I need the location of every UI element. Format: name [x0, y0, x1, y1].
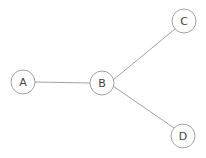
edge-b-c: [113, 29, 175, 80]
node-label-c: C: [180, 15, 188, 28]
node-d: D: [171, 124, 195, 148]
node-c: C: [172, 9, 196, 33]
node-label-b: B: [98, 77, 106, 90]
graph-svg: A B C D: [0, 0, 206, 158]
edge-a-b: [35, 82, 90, 83]
node-label-a: A: [19, 76, 27, 89]
node-b: B: [90, 71, 114, 95]
edge-b-d: [113, 86, 174, 128]
node-a: A: [11, 70, 35, 94]
graph-diagram: A B C D: [0, 0, 206, 158]
node-label-d: D: [179, 130, 187, 143]
